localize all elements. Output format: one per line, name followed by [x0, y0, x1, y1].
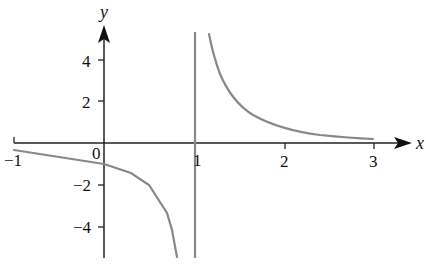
- y-tick-label: −2: [73, 176, 91, 195]
- y-tick-label: 4: [82, 52, 91, 71]
- y-tick-label: 2: [82, 93, 91, 112]
- x-tick-label: 3: [369, 152, 378, 171]
- curve-right-branch: [209, 34, 373, 139]
- x-tick-label: 2: [280, 152, 289, 171]
- chart: y x −1 0 1 2 3 4 2 −2 −4: [0, 0, 426, 264]
- origin-label: 0: [92, 144, 101, 163]
- x-tick-label: −1: [4, 151, 22, 170]
- y-axis-label: y: [98, 2, 108, 22]
- x-axis-label: x: [415, 133, 424, 153]
- curve-left-branch: [14, 150, 177, 257]
- y-tick-label: −4: [73, 218, 92, 237]
- x-tick-label: 1: [193, 151, 202, 170]
